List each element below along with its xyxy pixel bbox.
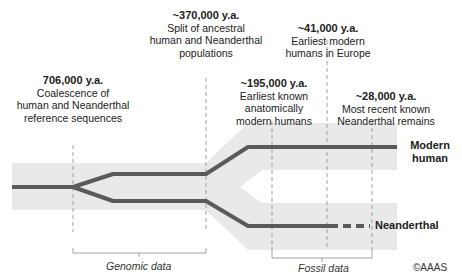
- event-label-195k: ~195,000 y.a. Earliest known anatomicall…: [222, 77, 326, 127]
- label-modern-human: Modern human: [402, 139, 458, 165]
- event-label-41k: ~41,000 y.a. Earliest modern humans in E…: [276, 22, 380, 60]
- event-date: ~195,000 y.a.: [222, 77, 326, 90]
- range-label-genomic: Genomic data: [106, 260, 171, 272]
- event-date: 706,000 y.a.: [0, 74, 146, 87]
- event-label-706k: 706,000 y.a. Coalescence of human and Ne…: [0, 74, 146, 124]
- event-date: ~28,000 y.a.: [330, 90, 442, 103]
- event-label-28k: ~28,000 y.a. Most recent known Neanderth…: [330, 90, 442, 128]
- event-label-370k: ~370,000 y.a. Split of ancestral human a…: [138, 9, 274, 59]
- range-label-fossil: Fossil data: [298, 262, 349, 274]
- copyright-credit: ©AAAS: [413, 262, 447, 273]
- event-date: ~41,000 y.a.: [276, 22, 380, 35]
- event-date: ~370,000 y.a.: [138, 9, 274, 22]
- label-neanderthal: Neanderthal: [375, 219, 439, 232]
